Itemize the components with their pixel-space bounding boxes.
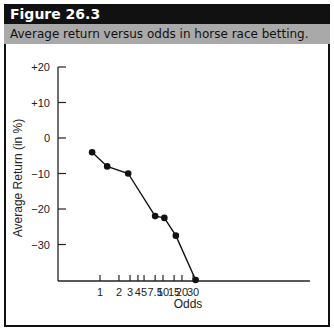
data-point <box>161 215 168 222</box>
y-tick-label: −10 <box>31 168 50 180</box>
y-tick-label: −30 <box>31 239 50 251</box>
data-point <box>192 277 199 284</box>
x-axis-label: Odds <box>174 297 203 311</box>
line-chart: +20+100−10−20−30 123457.510152030 Odds A… <box>0 0 334 334</box>
y-tick-label: +10 <box>31 97 50 109</box>
y-tick-label: −20 <box>31 203 50 215</box>
data-point <box>173 232 180 239</box>
data-point <box>89 149 96 156</box>
data-point <box>152 213 159 220</box>
y-tick-label: 0 <box>44 132 50 144</box>
y-ticks: +20+100−10−20−30 <box>31 61 66 251</box>
data-point <box>125 170 132 177</box>
data-series <box>89 149 199 283</box>
x-tick-label: 5 <box>141 286 147 298</box>
x-ticks: 123457.510152030 <box>97 275 199 298</box>
series-line <box>92 152 196 280</box>
x-tick-label: 3 <box>127 286 133 298</box>
x-tick-label: 2 <box>116 286 122 298</box>
y-axis-label: Average Return (in %) <box>11 119 25 238</box>
x-tick-label: 1 <box>97 286 103 298</box>
y-tick-label: +20 <box>31 61 50 73</box>
data-point <box>104 163 111 170</box>
chart-axes <box>58 67 310 281</box>
